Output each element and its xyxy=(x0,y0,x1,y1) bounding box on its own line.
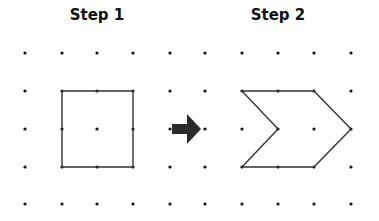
grid-dot xyxy=(168,202,171,205)
grid-dot xyxy=(203,202,206,205)
grid-dot xyxy=(349,202,352,205)
grid-dot xyxy=(131,202,134,205)
grid-dot xyxy=(203,165,206,168)
grid-dot xyxy=(349,165,352,168)
step-2-chevron xyxy=(242,91,351,167)
grid-dot xyxy=(240,51,243,54)
grid-dot xyxy=(23,51,26,54)
grid-dot xyxy=(240,127,243,130)
grid-dot xyxy=(23,127,26,130)
grid-dot xyxy=(60,51,63,54)
grid-dot xyxy=(312,127,315,130)
grid-dot xyxy=(168,51,171,54)
grid-dot xyxy=(203,89,206,92)
grid-dot xyxy=(60,202,63,205)
grid-dot xyxy=(23,202,26,205)
grid-dot xyxy=(349,89,352,92)
grid-dot xyxy=(349,51,352,54)
grid-dot xyxy=(203,51,206,54)
grid-dot xyxy=(168,127,171,130)
grid-dot xyxy=(23,89,26,92)
grid-dot xyxy=(240,202,243,205)
grid-dot xyxy=(168,89,171,92)
grid-dot xyxy=(312,51,315,54)
dot-grid-diagram xyxy=(0,0,379,221)
arrow-right-icon xyxy=(172,114,201,144)
grid-dot xyxy=(95,202,98,205)
grid-dot xyxy=(95,127,98,130)
grid-dot xyxy=(23,165,26,168)
grid-dot xyxy=(312,202,315,205)
grid-dot xyxy=(131,51,134,54)
grid-dot xyxy=(203,127,206,130)
grid-dot xyxy=(276,202,279,205)
grid-dot xyxy=(276,51,279,54)
grid-dot xyxy=(95,51,98,54)
grid-dot xyxy=(168,165,171,168)
